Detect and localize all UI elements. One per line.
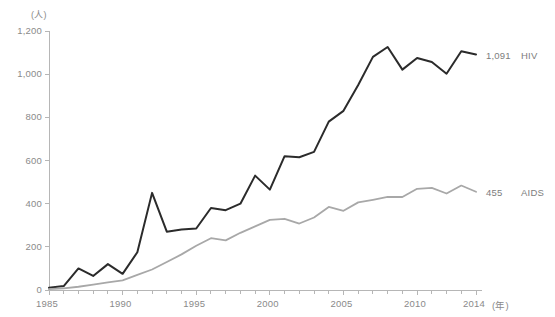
x-axis-unit-label: (年)	[492, 298, 509, 312]
x-axis-tick-label: 2005	[330, 298, 352, 309]
series-legend-label-hiv: HIV	[521, 50, 537, 61]
chart-plot-area	[0, 0, 555, 317]
y-axis-tick-label: 600	[26, 155, 42, 166]
series-legend-label-aids: AIDS	[521, 187, 544, 198]
y-axis-tick-label: 1,000	[17, 68, 42, 79]
x-axis-tick-label: 2000	[257, 298, 279, 309]
y-axis-tick-label: 400	[26, 198, 42, 209]
series-end-value-aids: 455	[486, 187, 502, 198]
series-end-value-hiv: 1,091	[486, 50, 511, 61]
y-axis-tick-label: 1,200	[17, 25, 42, 36]
y-axis-tick-label: 800	[26, 111, 42, 122]
x-axis-tick-label: 1985	[36, 298, 58, 309]
hiv-aids-line-chart: (人) 02004006008001,0001,2001985199019952…	[0, 0, 555, 317]
x-axis-tick-label: 2010	[404, 298, 426, 309]
x-axis-tick-label: 1995	[183, 298, 205, 309]
series-line-hiv	[49, 47, 476, 288]
y-axis-tick-label: 0	[37, 284, 42, 295]
x-axis-tick-label: 2014	[463, 298, 485, 309]
series-group	[49, 47, 476, 289]
y-axis-tick-label: 200	[26, 241, 42, 252]
axes-group	[45, 31, 482, 295]
x-axis-tick-label: 1990	[110, 298, 132, 309]
series-line-aids	[49, 186, 476, 290]
